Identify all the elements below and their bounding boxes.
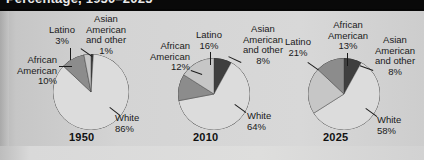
- label-text: American: [375, 45, 415, 56]
- label-text: African: [27, 54, 57, 65]
- panel-bottom-strip: [0, 146, 424, 160]
- label-value: 10%: [38, 75, 57, 86]
- label-2010-african-american: African American 12%: [136, 41, 190, 73]
- label-value: 1%: [99, 45, 113, 56]
- label-value: 8%: [256, 55, 270, 66]
- label-2025-latino: Latino 21%: [276, 37, 320, 58]
- label-text: and other: [375, 55, 415, 66]
- leader-2025-african-american: [347, 53, 348, 66]
- year-label-2025: 2025: [323, 131, 348, 143]
- year-label-1950: 1950: [69, 131, 94, 143]
- figure-title-bar: Percentage, 1950–2025: [0, 0, 424, 11]
- label-value: 13%: [338, 40, 357, 51]
- leader-1950-african-american: [59, 66, 72, 67]
- year-label-2010: 2010: [193, 131, 218, 143]
- label-text: American: [150, 51, 190, 62]
- label-text: Latino: [196, 29, 222, 40]
- label-text: Asian: [251, 23, 275, 34]
- label-text: Latino: [49, 24, 75, 35]
- label-text: Asian: [383, 34, 407, 45]
- leader-1950-latino: [70, 48, 71, 60]
- label-text: Asian: [94, 13, 118, 24]
- label-value: 16%: [199, 40, 218, 51]
- label-text: Latino: [285, 36, 311, 47]
- label-value: 21%: [288, 47, 307, 58]
- label-text: and other: [86, 34, 126, 45]
- label-text: White: [377, 114, 401, 125]
- label-1950-african-american: African American 10%: [3, 55, 57, 87]
- label-text: African: [333, 19, 363, 30]
- label-2025-white: White 58%: [377, 115, 421, 136]
- pie-chart-2010: Latino 16% Asian American and other 8% A…: [140, 11, 290, 146]
- label-2025-asian-other: Asian American and other 8%: [366, 35, 424, 77]
- label-text: African: [160, 40, 190, 51]
- label-value: 86%: [115, 123, 134, 134]
- label-text: White: [247, 110, 271, 121]
- page-title: Percentage, 1950–2025: [6, 0, 153, 6]
- figure-root: Percentage, 1950–2025 Latino 3%: [0, 0, 424, 160]
- label-value: 3%: [55, 35, 69, 46]
- label-value: 58%: [377, 125, 396, 136]
- pie-chart-2025: African American 13% Latino 21% Asian Am…: [278, 11, 424, 146]
- label-value: 64%: [247, 121, 266, 132]
- pie-chart-1950: Latino 3% Asian American and other 1% Af…: [0, 11, 150, 146]
- title-bar-shadow: [0, 9, 424, 11]
- leader-2025-latino: [307, 62, 318, 70]
- label-text: American: [328, 30, 368, 41]
- label-text: American: [17, 65, 57, 76]
- label-value: 12%: [171, 61, 190, 72]
- leader-2010-latino: [210, 52, 211, 65]
- label-value: 8%: [388, 66, 402, 77]
- label-1950-asian-other: Asian American and other 1%: [76, 14, 136, 56]
- label-text: American: [86, 24, 126, 35]
- label-2010-latino: Latino 16%: [188, 30, 230, 51]
